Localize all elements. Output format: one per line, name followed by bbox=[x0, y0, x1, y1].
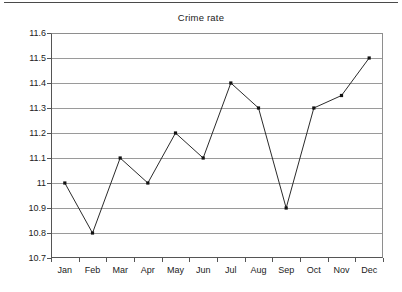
x-axis-tick-mark bbox=[79, 258, 80, 262]
x-axis-tick-mark bbox=[245, 258, 246, 262]
x-axis-tick-mark bbox=[217, 258, 218, 262]
x-axis-tick-label: Feb bbox=[85, 265, 101, 275]
x-axis-tick-label: Sep bbox=[278, 265, 294, 275]
x-axis-tick-marks bbox=[51, 258, 384, 263]
x-axis-tick-label: Apr bbox=[141, 265, 155, 275]
data-point-marker bbox=[257, 106, 260, 109]
x-axis-tick-label: Aug bbox=[250, 265, 266, 275]
series-line bbox=[65, 58, 369, 233]
data-point-marker bbox=[312, 106, 315, 109]
x-axis-tick-label: Jul bbox=[225, 265, 237, 275]
x-axis-tick-label: Mar bbox=[112, 265, 128, 275]
plot-area bbox=[51, 33, 383, 258]
x-axis-tick-labels: JanFebMarAprMayJunJulAugSepOctNovDec bbox=[51, 265, 383, 279]
x-axis-tick-label: Nov bbox=[333, 265, 349, 275]
x-axis-tick-label: Dec bbox=[361, 265, 377, 275]
data-point-marker bbox=[340, 94, 343, 97]
line-series-crime-rate bbox=[51, 33, 383, 258]
data-point-marker bbox=[202, 156, 205, 159]
x-axis-tick-mark bbox=[51, 258, 52, 262]
x-axis-tick-mark bbox=[383, 258, 384, 262]
header-divider bbox=[4, 2, 398, 3]
x-axis-tick-mark bbox=[134, 258, 135, 262]
x-axis-tick-mark bbox=[106, 258, 107, 262]
x-axis-tick-label: Jun bbox=[196, 265, 211, 275]
x-axis-tick-label: Jan bbox=[58, 265, 73, 275]
x-axis-tick-mark bbox=[355, 258, 356, 262]
chart-title: Crime rate bbox=[0, 12, 402, 23]
x-axis-tick-label: May bbox=[167, 265, 184, 275]
x-axis-tick-label: Oct bbox=[307, 265, 321, 275]
data-point-marker bbox=[285, 206, 288, 209]
x-axis-tick-mark bbox=[328, 258, 329, 262]
x-axis-tick-mark bbox=[272, 258, 273, 262]
data-point-marker bbox=[63, 181, 66, 184]
x-axis-tick-mark bbox=[300, 258, 301, 262]
chart-page: Crime rate 11.611.511.411.311.211.11110.… bbox=[0, 0, 402, 292]
data-point-marker bbox=[91, 231, 94, 234]
data-point-marker bbox=[368, 56, 371, 59]
data-point-marker bbox=[119, 156, 122, 159]
y-axis-tick-marks bbox=[0, 33, 51, 258]
data-point-marker bbox=[174, 131, 177, 134]
x-axis-tick-mark bbox=[162, 258, 163, 262]
data-point-marker bbox=[146, 181, 149, 184]
data-point-marker bbox=[229, 81, 232, 84]
x-axis-tick-mark bbox=[189, 258, 190, 262]
